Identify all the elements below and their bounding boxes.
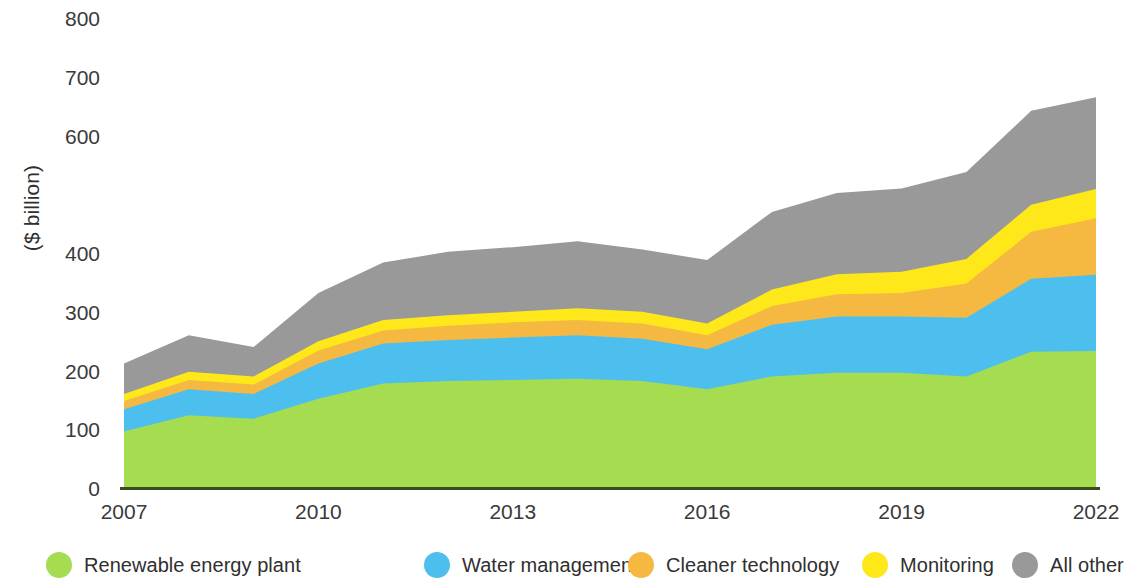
legend-item[interactable]: All other (1012, 543, 1124, 587)
stacked-area-chart: ($ billion) 8007006004003002001000 20072… (0, 0, 1126, 587)
x-tick-label: 2016 (684, 501, 731, 522)
legend-label: Water management (462, 554, 638, 577)
legend-item[interactable]: Renewable energy plant (46, 543, 301, 587)
legend-item[interactable]: Cleaner technology (628, 543, 839, 587)
legend-swatch-icon (424, 552, 450, 578)
x-tick-label: 2007 (101, 501, 148, 522)
legend-swatch-icon (628, 552, 654, 578)
legend-swatch-icon (862, 552, 888, 578)
legend-swatch-icon (1012, 552, 1038, 578)
x-tick-label: 2019 (878, 501, 925, 522)
legend-label: Cleaner technology (666, 554, 839, 577)
chart-legend: Renewable energy plantWater managementCl… (0, 543, 1126, 587)
legend-item[interactable]: Water management (424, 543, 638, 587)
x-axis-tick-labels: 200720102013201620192022 (0, 0, 1126, 587)
x-tick-label: 2010 (295, 501, 342, 522)
legend-label: Monitoring (900, 554, 994, 577)
legend-item[interactable]: Monitoring (862, 543, 994, 587)
legend-swatch-icon (46, 552, 72, 578)
legend-label: All other (1050, 554, 1124, 577)
x-tick-label: 2013 (489, 501, 536, 522)
x-tick-label: 2022 (1073, 501, 1120, 522)
legend-label: Renewable energy plant (84, 554, 301, 577)
